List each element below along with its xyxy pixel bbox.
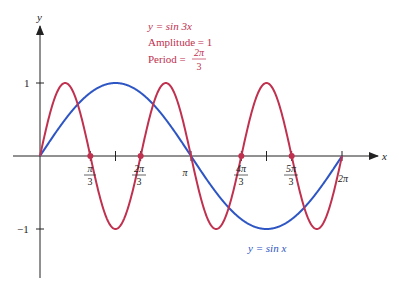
y-tick-label-1: 1 xyxy=(24,77,30,89)
chart: y x 1 −1 π 3 2π 3 π 4π 3 5π 3 2π y = sin… xyxy=(0,0,399,290)
tick-label-pi-3-den: 3 xyxy=(88,176,93,187)
x-axis-label: x xyxy=(381,150,387,162)
tick-label-2pi-3-den: 3 xyxy=(137,176,142,187)
blue-equation: y = sin x xyxy=(247,242,286,254)
y-axis-label: y xyxy=(36,11,42,23)
tick-label-4pi-3-den: 3 xyxy=(239,176,244,187)
tick-label-2pi-3-num: 2π xyxy=(134,163,145,174)
red-period-prefix: Period = xyxy=(148,53,186,65)
tick-label-5pi-3-num: 5π xyxy=(286,163,297,174)
tick-label-4pi-3-num: 4π xyxy=(236,163,247,174)
y-tick-label-neg1: −1 xyxy=(17,223,29,235)
red-period-num: 2π xyxy=(194,47,205,58)
tick-label-pi: π xyxy=(182,167,188,178)
tick-label-5pi-3-den: 3 xyxy=(289,176,294,187)
red-period-den: 3 xyxy=(197,61,202,72)
red-equation: y = sin 3x xyxy=(147,20,192,32)
tick-label-2pi: 2π xyxy=(338,173,349,184)
